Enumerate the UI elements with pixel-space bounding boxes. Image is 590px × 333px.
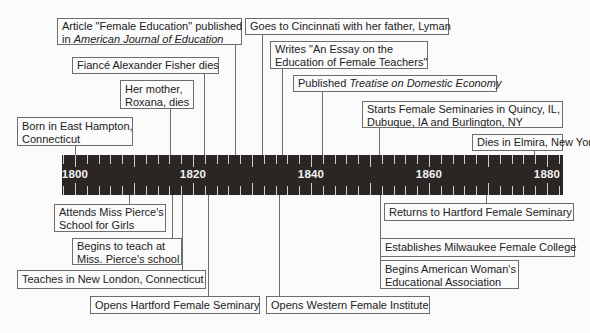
tick-mark <box>370 155 371 167</box>
event-article: Article "Female Education" published in … <box>57 18 242 45</box>
year-label: 1820 <box>180 168 206 180</box>
event-text: Writes "An Essay on the <box>275 43 423 56</box>
event-text: Establishes Milwaukee Female College <box>385 241 570 254</box>
tick-mark <box>99 186 100 195</box>
tick-mark <box>488 183 489 195</box>
tick-mark <box>205 186 206 195</box>
tick-mark <box>476 186 477 195</box>
tick-mark <box>335 186 336 195</box>
connector-returns <box>486 195 487 203</box>
connector-cincinnati <box>262 34 263 155</box>
event-fiance: Fiancé Alexander Fisher dies <box>72 57 219 74</box>
event-text: Starts Female Seminaries in Quincy, IL, <box>367 103 558 116</box>
tick-mark <box>193 183 194 195</box>
tick-mark <box>346 186 347 195</box>
tick-mark <box>405 155 406 164</box>
tick-mark <box>158 186 159 195</box>
tick-mark <box>429 183 430 195</box>
tick-mark <box>110 155 111 164</box>
tick-mark <box>240 186 241 195</box>
tick-mark <box>264 186 265 195</box>
tick-mark <box>134 155 135 167</box>
tick-mark <box>488 155 489 167</box>
event-text: Her mother, <box>125 83 189 96</box>
tick-mark <box>228 155 229 164</box>
tick-mark <box>358 155 359 164</box>
tick-mark <box>264 155 265 164</box>
connector-new-london <box>182 195 183 270</box>
tick-mark <box>158 155 159 164</box>
tick-mark <box>228 186 229 195</box>
event-text: Education of Female Teachers" <box>275 56 423 69</box>
connector-article <box>235 44 236 155</box>
tick-mark <box>453 186 454 195</box>
event-text: Goes to Cincinnati with her father, Lyma… <box>250 20 444 33</box>
timeline-bar: 18001820184018601880 <box>62 155 563 195</box>
event-awea: Begins American Woman's Educational Asso… <box>380 260 519 289</box>
tick-mark <box>311 183 312 195</box>
tick-mark <box>217 186 218 195</box>
event-text: Roxana, dies <box>125 96 189 109</box>
event-text: Born in East Hampton, <box>22 120 128 133</box>
event-text: Connecticut <box>22 133 128 146</box>
tick-mark <box>464 186 465 195</box>
tick-mark <box>500 186 501 195</box>
event-treatise: Published Treatise on Domestic Economy <box>293 75 497 92</box>
tick-mark <box>87 186 88 195</box>
tick-mark <box>169 186 170 195</box>
event-milwaukee: Establishes Milwaukee Female College <box>380 238 575 257</box>
tick-mark <box>535 155 536 164</box>
tick-mark <box>276 186 277 195</box>
tick-mark <box>429 155 430 167</box>
tick-mark <box>441 186 442 195</box>
tick-mark <box>323 186 324 195</box>
connector-mother <box>170 108 171 155</box>
tick-mark <box>252 155 253 167</box>
event-text: School for Girls <box>59 219 161 232</box>
tick-mark <box>441 155 442 164</box>
tick-mark <box>75 183 76 195</box>
journal-title: American Journal of Education <box>74 33 224 45</box>
event-text: Dies in Elmira, New York <box>477 136 558 149</box>
tick-mark <box>122 155 123 164</box>
tick-mark <box>547 183 548 195</box>
event-text: Returns to Hartford Female Seminary <box>389 206 569 219</box>
event-text-prefix: Published <box>298 77 349 89</box>
tick-mark <box>535 186 536 195</box>
connector-attends <box>129 195 130 204</box>
event-text: Opens Western Female Institute <box>271 299 425 312</box>
tick-mark <box>358 186 359 195</box>
event-text: Begins American Woman's <box>385 263 514 276</box>
tick-mark <box>559 155 560 164</box>
tick-mark <box>63 155 64 164</box>
tick-mark <box>169 155 170 164</box>
event-seminaries: Starts Female Seminaries in Quincy, IL, … <box>362 101 563 128</box>
tick-mark <box>252 183 253 195</box>
tick-mark <box>110 186 111 195</box>
tick-mark <box>299 186 300 195</box>
connector-fiance <box>204 73 205 155</box>
tick-mark <box>240 155 241 164</box>
tick-mark <box>394 155 395 164</box>
event-text: Fiancé Alexander Fisher dies <box>77 59 214 72</box>
event-returns: Returns to Hartford Female Seminary <box>384 203 574 221</box>
tick-mark <box>523 155 524 164</box>
tick-mark <box>394 186 395 195</box>
connector-born <box>75 145 76 155</box>
tick-mark <box>453 155 454 164</box>
tick-mark <box>559 186 560 195</box>
tick-mark <box>99 155 100 164</box>
event-mother: Her mother, Roxana, dies <box>120 80 194 109</box>
event-text: Educational Association <box>385 276 514 289</box>
event-text: Begins to teach at <box>77 240 177 253</box>
tick-mark <box>346 155 347 164</box>
year-label: 1860 <box>416 168 442 180</box>
tick-mark <box>382 186 383 195</box>
tick-mark <box>193 155 194 167</box>
event-essay: Writes "An Essay on the Education of Fem… <box>270 41 428 69</box>
tick-mark <box>146 155 147 164</box>
tick-mark <box>146 186 147 195</box>
tick-mark <box>523 186 524 195</box>
tick-mark <box>405 186 406 195</box>
tick-mark <box>335 155 336 164</box>
